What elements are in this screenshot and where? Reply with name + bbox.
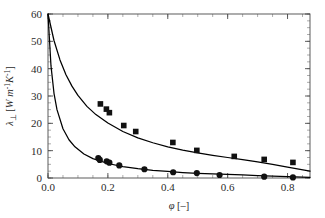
x-tick-label: 0.8 bbox=[281, 181, 295, 193]
data-point-circle bbox=[290, 174, 296, 180]
data-point-square bbox=[170, 140, 176, 146]
svg-text:λ⊥ [W m-1K-1]: λ⊥ [W m-1K-1] bbox=[3, 66, 18, 127]
x-axis-title: φ [–] bbox=[169, 200, 190, 211]
data-point-square bbox=[98, 101, 104, 107]
lower-model-curve bbox=[48, 14, 310, 177]
x-tick-label: 0.4 bbox=[161, 181, 175, 193]
upper-model-curve bbox=[48, 14, 310, 171]
y-tick-label: 30 bbox=[31, 90, 43, 102]
data-point-square bbox=[121, 123, 127, 129]
data-point-square bbox=[231, 154, 237, 160]
y-tick-label: 40 bbox=[31, 63, 43, 75]
data-point-circle bbox=[194, 170, 200, 176]
y-tick-label: 10 bbox=[31, 145, 43, 157]
x-tick-label: 0.6 bbox=[221, 181, 235, 193]
svg-text:φ [–]: φ [–] bbox=[169, 200, 190, 211]
y-tick-label: 20 bbox=[31, 117, 43, 129]
data-point-circle bbox=[141, 166, 147, 172]
chart-figure: 0.00.20.40.60.8 0102030405060 φ [–] λ⊥ [… bbox=[0, 0, 325, 218]
y-axis-title: λ⊥ [W m-1K-1] bbox=[3, 66, 18, 127]
data-point-square bbox=[107, 110, 113, 116]
data-point-circle bbox=[97, 157, 103, 163]
minor-tick-marks bbox=[48, 14, 310, 178]
data-point-circle bbox=[116, 162, 122, 168]
data-point-circle bbox=[216, 172, 222, 178]
y-tick-label: 60 bbox=[31, 8, 43, 20]
data-point-square bbox=[290, 160, 296, 166]
x-tick-label: 0.2 bbox=[101, 181, 115, 193]
x-axis-tick-labels: 0.00.20.40.60.8 bbox=[41, 181, 295, 193]
scatter-plot: 0.00.20.40.60.8 0102030405060 φ [–] λ⊥ [… bbox=[0, 0, 325, 218]
data-point-circle bbox=[106, 160, 112, 166]
data-point-circle bbox=[261, 174, 267, 180]
data-point-square bbox=[133, 129, 139, 135]
y-tick-label: 50 bbox=[31, 35, 43, 47]
plot-frame bbox=[48, 14, 310, 178]
y-axis-tick-labels: 0102030405060 bbox=[31, 8, 43, 184]
model-curves bbox=[48, 14, 310, 177]
data-point-circle bbox=[170, 169, 176, 175]
data-point-square bbox=[194, 148, 200, 154]
major-tick-marks bbox=[48, 14, 310, 178]
data-point-square bbox=[261, 157, 267, 163]
y-tick-label: 0 bbox=[37, 172, 43, 184]
x-tick-label: 0.0 bbox=[41, 181, 55, 193]
